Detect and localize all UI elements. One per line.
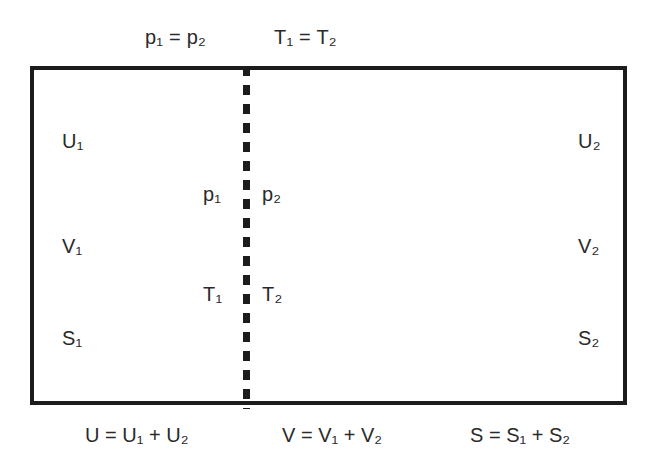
- subsystem1-volume-label: V₁: [62, 236, 83, 256]
- energy-additivity-equation: U = U₁ + U₂: [85, 425, 188, 445]
- temperature-equality-label: T₁ = T₂: [274, 27, 337, 47]
- subsystem1-internal-energy-label: U₁: [62, 131, 84, 151]
- pressure-equality-label: p₁ = p₂: [145, 27, 206, 47]
- volume-additivity-equation: V = V₁ + V₂: [282, 425, 382, 445]
- system-boundary-rectangle: [30, 66, 627, 405]
- subsystem1-pressure-label: p₁: [203, 184, 221, 204]
- entropy-additivity-equation: S = S₁ + S₂: [470, 425, 570, 445]
- subsystem2-entropy-label: S₂: [578, 328, 600, 348]
- subsystem1-entropy-label: S₁: [62, 328, 83, 348]
- subsystem1-temperature-label: T₁: [203, 284, 222, 304]
- subsystem2-volume-label: V₂: [578, 236, 600, 256]
- internal-partition-dashed-line: [243, 66, 250, 409]
- subsystem2-temperature-label: T₂: [262, 284, 282, 304]
- subsystem2-internal-energy-label: U₂: [578, 131, 601, 151]
- diagram-canvas: p₁ = p₂ T₁ = T₂ U₁ V₁ S₁ U₂ V₂ S₂ p₁ p₂ …: [0, 0, 660, 470]
- subsystem2-pressure-label: p₂: [262, 184, 281, 204]
